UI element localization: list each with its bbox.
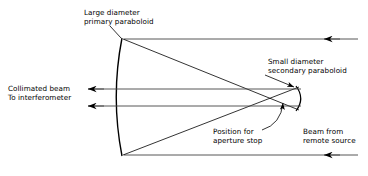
label-secondary-paraboloid: Small diameter secondary paraboloid — [268, 57, 347, 75]
label-aperture-line1: Position for — [213, 127, 262, 136]
label-primary-paraboloid: Large diameter primary paraboloid — [84, 8, 154, 26]
ray-primary-to-secondary-lower — [123, 87, 299, 155]
label-collimated-line1: Collimated beam — [8, 84, 71, 93]
secondary-mirror-surface — [296, 86, 301, 111]
label-primary-line2: primary paraboloid — [84, 17, 154, 26]
label-aperture-line2: aperture stop — [213, 136, 262, 145]
label-secondary-line2: secondary paraboloid — [268, 66, 347, 75]
primary-mirror-surface — [116, 38, 122, 156]
leader-primary-label — [110, 26, 121, 38]
label-remote-line2: remote source — [303, 136, 356, 145]
label-aperture-stop: Position for aperture stop — [213, 127, 262, 145]
label-collimated-beam: Collimated beam To interferometer — [8, 84, 71, 102]
optical-ray-diagram: Large diameter primary paraboloid Small … — [0, 0, 368, 176]
label-secondary-line1: Small diameter — [268, 57, 347, 66]
leader-secondary-label — [265, 75, 294, 87]
label-primary-line1: Large diameter — [84, 8, 154, 17]
label-collimated-line2: To interferometer — [8, 93, 71, 102]
label-remote-line1: Beam from — [303, 127, 356, 136]
label-remote-source: Beam from remote source — [303, 127, 356, 145]
leader-aperture-stop — [262, 103, 283, 130]
